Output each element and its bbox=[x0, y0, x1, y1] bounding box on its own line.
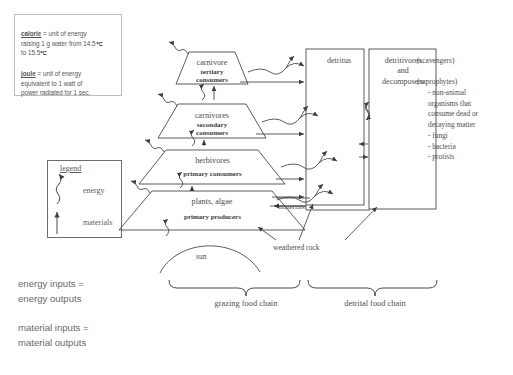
energy-transfer-sun-to-producers bbox=[165, 219, 169, 236]
energy-loss-arrow-secondary bbox=[158, 94, 177, 106]
weathered-rock-pointer-to-detritivores bbox=[345, 207, 377, 240]
energy-loss-arrow-tertiary bbox=[169, 42, 188, 54]
squiggly-arrow-icon bbox=[56, 174, 61, 204]
ecosystem-flow-diagram: calorie = unit of energy raising 1 g wat… bbox=[0, 0, 513, 375]
energy-escape-arrow-tertiary bbox=[286, 56, 294, 68]
trapezoid-tertiary-consumers bbox=[176, 52, 248, 84]
energy-escape-arrow-producers bbox=[315, 184, 323, 196]
trapezoid-secondary-consumers bbox=[158, 104, 266, 138]
energy-transfer-arrows bbox=[165, 84, 205, 236]
materials-return-arrow bbox=[270, 198, 370, 210]
food-chain-braces bbox=[169, 280, 437, 296]
trapezoid-primary-consumers bbox=[139, 150, 285, 184]
tier-to-detritus-arrows bbox=[240, 56, 337, 202]
energy-arrow-tertiary-to-detritus bbox=[248, 63, 304, 74]
energy-loss-arrow-herbivores bbox=[145, 140, 164, 152]
energy-arrow-secondary-to-detritus bbox=[262, 113, 318, 124]
diagram-vector-layer bbox=[0, 0, 513, 375]
energy-transfer-secondary-to-tertiary bbox=[201, 84, 205, 100]
material-transfer-arrows bbox=[192, 86, 214, 188]
energy-escape-arrow-secondary bbox=[300, 106, 308, 118]
energy-arrow-herbivores-to-detritus bbox=[281, 158, 337, 169]
energy-loss-arrows bbox=[131, 42, 188, 193]
brace-detrital-food-chain bbox=[308, 280, 437, 296]
box-detritus bbox=[306, 49, 364, 205]
weathered-rock-pointers bbox=[258, 204, 377, 240]
energy-escape-arrow-herbivores bbox=[319, 151, 327, 163]
legend-glyphs bbox=[56, 174, 61, 234]
brace-grazing-food-chain bbox=[169, 280, 300, 296]
weathered-rock-pointer-to-producers bbox=[258, 227, 276, 240]
energy-transfer-producers-to-herbivores bbox=[179, 172, 183, 188]
sun-arc bbox=[160, 246, 260, 273]
box-detritivores bbox=[369, 49, 436, 209]
